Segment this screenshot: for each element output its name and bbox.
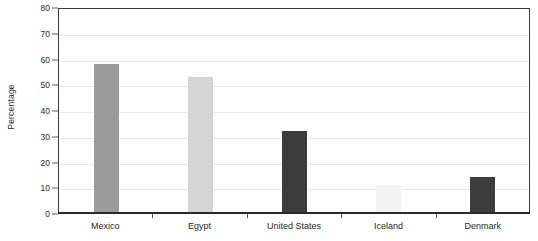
bar-slot xyxy=(153,9,247,213)
y-tick-label: 10 xyxy=(41,183,50,193)
y-tick-label: 50 xyxy=(41,80,50,90)
x-axis-labels: MexicoEgyptUnited StatesIcelandDenmark xyxy=(58,219,530,239)
x-tick-mark xyxy=(341,214,342,218)
bar-slot xyxy=(435,9,529,213)
x-tick-label: Iceland xyxy=(341,219,435,239)
y-tick-label: 20 xyxy=(41,158,50,168)
y-tick-label: 0 xyxy=(45,209,50,219)
bar xyxy=(282,131,307,213)
y-tick-label: 70 xyxy=(41,29,50,39)
y-tick-label: 30 xyxy=(41,132,50,142)
bar-slot xyxy=(59,9,153,213)
bar-chart: Percentage 01020304050607080 MexicoEgypt… xyxy=(0,0,538,241)
y-axis-title: Percentage xyxy=(0,0,22,214)
y-axis-ticks: 01020304050607080 xyxy=(22,0,58,214)
bar-slot xyxy=(247,9,341,213)
x-tick-label: Egypt xyxy=(152,219,246,239)
x-tick-mark xyxy=(436,214,437,218)
x-tick-label: Denmark xyxy=(436,219,530,239)
bar xyxy=(470,177,495,213)
x-tick-label: United States xyxy=(247,219,341,239)
y-tick-label: 40 xyxy=(41,106,50,116)
bar xyxy=(376,185,401,213)
y-axis-title-text: Percentage xyxy=(6,84,16,129)
bar xyxy=(188,77,213,213)
plot-area xyxy=(58,8,530,214)
bar xyxy=(94,64,119,213)
y-tick-label: 80 xyxy=(41,3,50,13)
x-tick-mark xyxy=(152,214,153,218)
bar-series xyxy=(59,9,529,213)
bar-slot xyxy=(341,9,435,213)
x-tick-mark xyxy=(247,214,248,218)
y-tick-label: 60 xyxy=(41,55,50,65)
x-tick-label: Mexico xyxy=(58,219,152,239)
